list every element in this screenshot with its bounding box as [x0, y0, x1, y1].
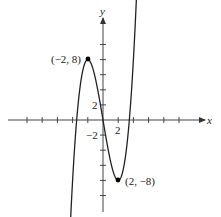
y-tick-label-2: 2 — [92, 99, 98, 111]
x-tick-label-2: 2 — [115, 124, 121, 136]
x-axis-label: x — [206, 114, 212, 126]
local-max-point — [86, 57, 91, 62]
function-graph: y x 2 2 −2 (−2, 8) (2, −8) — [0, 0, 221, 217]
local-min-point — [116, 178, 121, 183]
point-max-label: (−2, 8) — [51, 53, 81, 66]
point-min-label: (2, −8) — [125, 175, 155, 188]
y-axis-label: y — [99, 5, 105, 17]
y-tick-label-neg2: −2 — [86, 129, 98, 141]
